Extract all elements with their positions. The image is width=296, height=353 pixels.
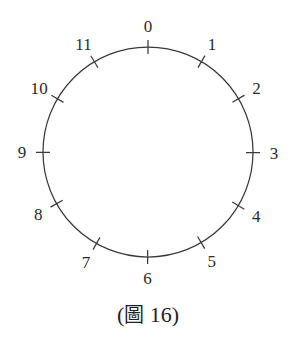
caption-cjk-char: 圖: [124, 303, 144, 327]
tick-mark-4: [232, 202, 244, 209]
hour-label-4: 4: [252, 208, 261, 225]
tick-mark-10: [51, 95, 63, 102]
tick-mark-1: [198, 56, 205, 68]
hour-label-11: 11: [75, 35, 92, 52]
figure-container: 01234567891011 (圖 16): [0, 0, 296, 353]
tick-mark-7: [93, 237, 100, 249]
tick-mark-8: [51, 200, 63, 207]
hour-label-7: 7: [82, 253, 91, 270]
hour-label-5: 5: [207, 252, 216, 269]
tick-mark-5: [198, 237, 205, 249]
hour-label-1: 1: [208, 35, 217, 52]
figure-caption: (圖 16): [0, 303, 296, 327]
tick-mark-2: [232, 95, 244, 102]
circle-outline: [43, 47, 253, 257]
hour-label-10: 10: [31, 80, 48, 97]
tick-mark-group: [36, 40, 260, 264]
circle-diagram-svg: [0, 0, 296, 353]
caption-number: 16: [150, 302, 172, 327]
tick-mark-11: [91, 56, 98, 68]
hour-label-2: 2: [252, 80, 261, 97]
hour-label-0: 0: [144, 18, 153, 35]
hour-label-6: 6: [143, 270, 152, 287]
hour-label-8: 8: [34, 206, 43, 223]
hour-label-9: 9: [18, 144, 27, 161]
hour-label-3: 3: [270, 144, 279, 161]
caption-paren-close: ): [172, 302, 179, 327]
